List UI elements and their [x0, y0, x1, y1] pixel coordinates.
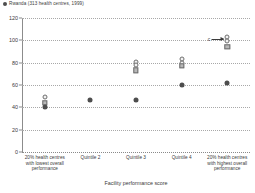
data-point: [225, 39, 230, 44]
x-axis-labels: 20% health centres with lowest overall p…: [22, 155, 250, 179]
data-point: [224, 44, 229, 49]
chart-legend: Rwanda (313 health centres, 1999): [3, 1, 84, 7]
x-tick-label-3: Quintile 3: [114, 155, 158, 161]
scatter-chart: Rwanda (313 health centres, 1999) 020406…: [0, 0, 255, 193]
annotation-label: c: [208, 36, 211, 42]
data-point: [179, 83, 184, 88]
data-point: [88, 97, 93, 102]
y-tick-label-120: 120: [9, 15, 18, 21]
x-tick-label-2: Quintile 2: [68, 155, 112, 161]
data-point: [225, 80, 230, 85]
legend-marker-icon: [3, 2, 7, 6]
gridline-40: [22, 107, 250, 108]
x-tick-label-5: 20% health centres with highest overall …: [203, 155, 251, 172]
annotation-arrow-icon: [211, 39, 223, 40]
gridline-0: [22, 152, 250, 153]
data-point: [42, 95, 47, 100]
data-point: [134, 62, 139, 67]
y-tick-label-60: 60: [12, 82, 18, 88]
y-tick-label-20: 20: [12, 127, 18, 133]
gridline-120: [22, 18, 250, 19]
x-tick-label-4: Quintile 4: [160, 155, 204, 161]
gridline-60: [22, 85, 250, 86]
y-tick-label-0: 0: [15, 149, 18, 155]
data-point: [134, 97, 139, 102]
data-point: [179, 63, 184, 68]
y-tick-label-100: 100: [9, 37, 18, 43]
data-point: [42, 105, 47, 110]
x-tick-label-1: 20% health centres with lowest overall p…: [21, 155, 69, 172]
y-tick-label-40: 40: [12, 104, 18, 110]
data-point: [133, 68, 138, 73]
y-tick-label-80: 80: [12, 60, 18, 66]
chart-annotation: c: [208, 36, 224, 42]
plot-area: c: [22, 18, 250, 152]
legend-label: Rwanda (313 health centres, 1999): [9, 1, 84, 7]
gridline-20: [22, 130, 250, 131]
y-axis: 020406080100120: [0, 18, 20, 152]
x-axis-title: Facility performance score: [22, 180, 250, 187]
